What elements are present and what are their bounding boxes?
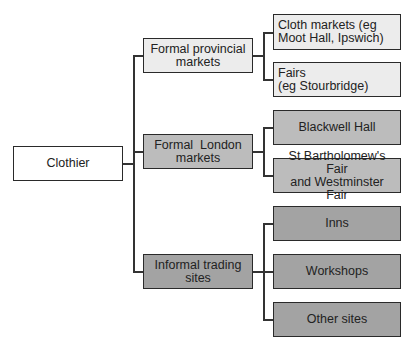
connector-other bbox=[263, 319, 273, 321]
connector-london-spine bbox=[263, 127, 265, 176]
connector-informal bbox=[133, 271, 143, 273]
node-label: Cloth markets (egMoot Hall, Ipswich) bbox=[278, 19, 384, 45]
node-fairs: Fairs(eg Stourbridge) bbox=[273, 62, 401, 97]
connector-inns bbox=[263, 223, 273, 225]
node-formal-london-markets: Formal Londonmarkets bbox=[143, 134, 253, 169]
node-label: Workshops bbox=[306, 265, 368, 278]
node-st-bartholomews-westminster-fair: St Bartholomew's Fairand Westminster Fai… bbox=[273, 158, 401, 193]
connector-london bbox=[133, 151, 143, 153]
node-cloth-markets: Cloth markets (egMoot Hall, Ipswich) bbox=[273, 14, 401, 50]
connector-london-out bbox=[253, 151, 263, 153]
connector-blackwell bbox=[263, 127, 273, 129]
node-label: Formal provincialmarkets bbox=[150, 43, 245, 69]
connector-workshops bbox=[263, 271, 273, 273]
connector-trunk bbox=[133, 55, 135, 272]
node-informal-trading-sites: Informal tradingsites bbox=[143, 254, 253, 289]
connector-provincial bbox=[133, 55, 143, 57]
node-label: Formal Londonmarkets bbox=[154, 139, 242, 165]
connector-cloth bbox=[263, 32, 273, 34]
node-label: St Bartholomew's Fairand Westminster Fai… bbox=[278, 150, 396, 202]
node-formal-provincial-markets: Formal provincialmarkets bbox=[143, 38, 253, 73]
node-other-sites: Other sites bbox=[273, 302, 401, 337]
node-label: Fairs(eg Stourbridge) bbox=[278, 67, 368, 93]
node-label: Inns bbox=[325, 217, 349, 230]
connector-fairs bbox=[263, 79, 273, 81]
node-label: Blackwell Hall bbox=[298, 121, 375, 134]
node-workshops: Workshops bbox=[273, 254, 401, 289]
node-blackwell-hall: Blackwell Hall bbox=[273, 110, 401, 145]
connector-provincial-spine bbox=[263, 32, 265, 80]
node-label: Clothier bbox=[46, 157, 89, 170]
connector-stbart bbox=[263, 175, 273, 177]
connector-provincial-out bbox=[253, 55, 263, 57]
connector-informal-out bbox=[253, 271, 263, 273]
node-label: Other sites bbox=[307, 313, 367, 326]
node-clothier: Clothier bbox=[13, 146, 123, 181]
node-inns: Inns bbox=[273, 206, 401, 241]
node-label: Informal tradingsites bbox=[155, 259, 242, 285]
